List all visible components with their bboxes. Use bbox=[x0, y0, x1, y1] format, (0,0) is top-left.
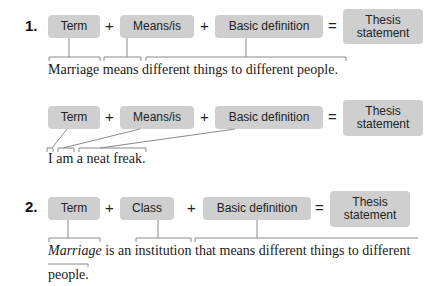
connector-line bbox=[100, 129, 235, 148]
bracket bbox=[104, 57, 141, 61]
bracket bbox=[48, 264, 88, 267]
bracket bbox=[146, 57, 346, 61]
bracket bbox=[49, 238, 100, 242]
bracket bbox=[79, 148, 146, 152]
connector-line bbox=[63, 129, 140, 148]
connector-lines bbox=[0, 0, 440, 286]
connector-line bbox=[52, 129, 67, 148]
bracket bbox=[47, 148, 53, 152]
bracket bbox=[49, 57, 100, 61]
bracket bbox=[58, 148, 74, 152]
bracket bbox=[136, 238, 191, 242]
bracket bbox=[195, 238, 418, 242]
